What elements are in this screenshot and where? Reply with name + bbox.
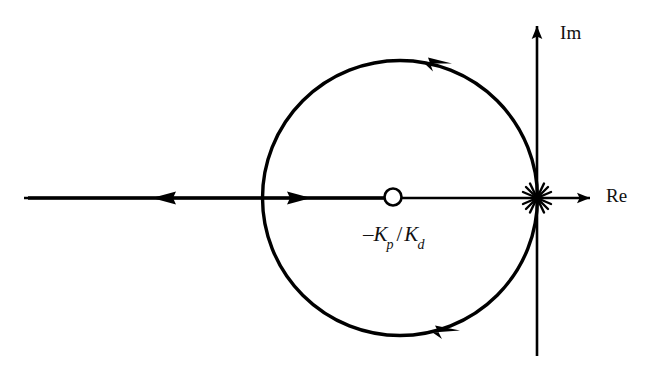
zero-label-numerator-subscript: p (387, 237, 394, 252)
imaginary-axis-label: Im (560, 23, 582, 42)
zero-label-denominator-subscript: d (417, 237, 424, 252)
zero-label-numerator: K (374, 222, 388, 246)
real-axis-locus-branch (28, 192, 393, 205)
zero-marker-shape (385, 189, 402, 206)
real-axis-arrow-right-icon (287, 192, 311, 205)
real-axis-arrow-left-icon (152, 192, 176, 205)
zero-marker-open-circle-icon (385, 189, 402, 206)
zero-label-minus: – (363, 222, 374, 246)
real-axis-label: Re (606, 186, 628, 205)
zero-annotation-label: –Kp/Kd (363, 224, 425, 249)
root-locus-plot (0, 0, 656, 380)
root-locus-figure: Im Re –Kp/Kd (0, 0, 656, 380)
zero-label-slash: / (395, 222, 405, 246)
